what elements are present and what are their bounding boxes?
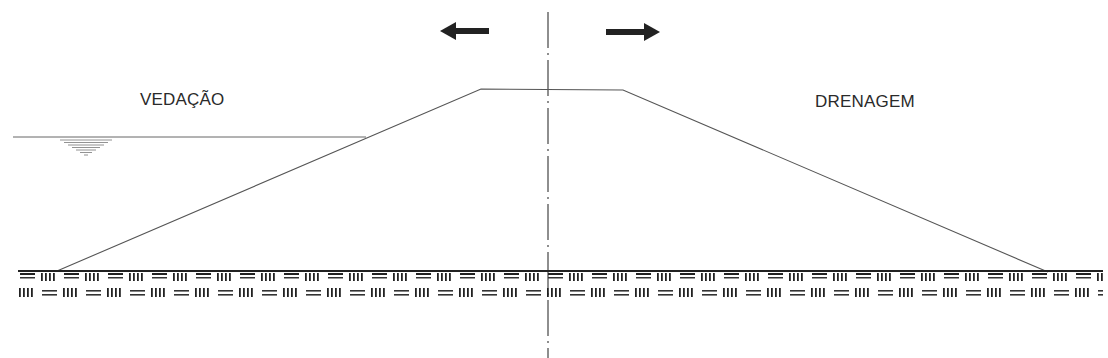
embankment-outline — [57, 89, 1048, 272]
foundation-hatch-row-1 — [18, 272, 1103, 282]
arrow-right-icon — [606, 23, 660, 41]
arrow-left-icon — [440, 22, 489, 40]
foundation-hatch-row-2 — [18, 288, 1103, 298]
dam-cross-section — [0, 0, 1108, 358]
water-level-symbol-icon — [60, 140, 112, 155]
